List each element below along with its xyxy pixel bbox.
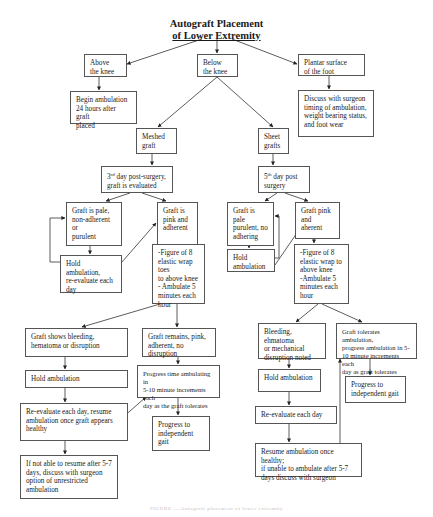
figure-caption: FIGURE — Autograft placement of lower ex… [0, 506, 433, 511]
node-mesh-remains-pink: Graft remains, pink, adherent, no disrup… [142, 328, 216, 357]
node-meshed-graft: Meshed graft [136, 128, 177, 154]
node-day5-evaluation: 5th day post surgery [258, 166, 310, 193]
node-sheet-hold-ambulation: Hold ambulation [258, 369, 321, 392]
title-line-1: Autograft Placement [0, 18, 433, 30]
node-discuss-surgeon: Discuss with surgeon timing of ambulatio… [298, 90, 374, 137]
node-mesh-hold-reevaluate: Hold ambulation, re-evaluate each day [60, 255, 122, 293]
node-above-knee: Above the knee [84, 54, 127, 77]
node-mesh-figure-8: -Figure of 8 elastic wrap toes to above … [152, 244, 205, 304]
arrow-title-plantar [232, 39, 297, 64]
node-sheet-hold: Hold ambulation [227, 249, 275, 272]
node-mesh-progress-gait: Progress to independent gait [152, 416, 210, 451]
arrow-day3-pink [142, 193, 166, 201]
node-sheet-resume: Resume ambulation once healthy; if unabl… [255, 443, 362, 477]
arrow-below-sheet [217, 77, 273, 127]
arrow-day5-pink [285, 193, 308, 201]
node-sheet-bleeding: Bleeding, ehmatoma or mechanical disrupt… [258, 323, 326, 359]
arrow-title-above-knee [127, 39, 202, 64]
arrow-day3-pale [106, 193, 130, 201]
node-sheet-grafts: Sheet grafts [258, 128, 289, 154]
arrow-fig8-bleeding [82, 304, 160, 327]
title-line-2: of Lower Extremity [0, 30, 433, 42]
diagram-title: Autograft Placement of Lower Extremity [0, 18, 433, 42]
node-mesh-hold-ambulation: Hold ambulation [25, 370, 128, 388]
node-mesh-progress-time: Progress time ambulating in 5-10 minute … [137, 365, 220, 398]
node-sheet-figure-8: -Figure of 8 elastic wrap to above knee … [294, 244, 349, 304]
node-mesh-graft-pale: Graft is pale, non-adherent or purulent [66, 202, 122, 246]
arrow-sfig8-bleeding [296, 304, 318, 322]
node-sheet-progress-gait: Progress to independent gait [345, 376, 406, 403]
node-day3-evaluation: 3rd day post-surgery, graft is evaluated [101, 166, 173, 193]
arrow-shold-loop-back [275, 216, 279, 258]
node-mesh-bleeding: Graft shows bleeding, hematoma or disrup… [25, 328, 128, 357]
node-plantar-surface: Plantar surface of the foot [298, 54, 365, 76]
node-begin-ambulation: Begin ambulation 24 hours after graft pl… [70, 91, 137, 124]
node-below-knee: Below the knee [197, 54, 238, 77]
node-sheet-graft-pink: Graft pink and aherent [295, 202, 340, 239]
arrow-hold-to-pink [122, 223, 156, 262]
node-sheet-reevaluate: Re-evaluate each day [255, 406, 337, 424]
node-mesh-not-able: If not able to resume after 5-7 days, di… [20, 455, 118, 499]
arrow-day5-pale [265, 193, 277, 201]
node-sheet-tolerates: Graft tolerates ambulation, progress amb… [336, 323, 417, 359]
arrow-sfig8-tolerates [322, 304, 362, 322]
node-mesh-graft-pink: Graft is pink and adherent [157, 202, 198, 246]
arrow-below-meshed [158, 77, 217, 127]
day3-text: day post-surgery, graft is evaluated [107, 173, 166, 190]
node-sheet-graft-pale: Graft is pale purulent, no adhering [227, 202, 274, 246]
node-mesh-reevaluate-resume: Re-evaluate each day, resume ambulation … [20, 403, 128, 441]
